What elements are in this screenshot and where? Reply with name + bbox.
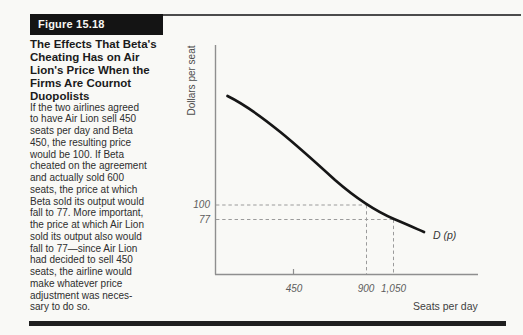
bottom-rule xyxy=(29,321,506,326)
y-tick-label-77: 77 xyxy=(184,214,210,225)
y-tick-label-100: 100 xyxy=(184,199,210,210)
demand-chart xyxy=(0,0,523,335)
x-tick-label-1050: 1,050 xyxy=(372,283,416,294)
textbook-figure-page: Figure 15.18 The Effects That Beta'sChea… xyxy=(0,0,523,335)
y-axis-title: Dollars per seat xyxy=(186,35,197,127)
x-axis-title: Seats per day xyxy=(413,300,508,312)
demand-curve xyxy=(228,96,425,232)
x-tick-label-450: 450 xyxy=(272,283,316,294)
demand-curve-label: D (p) xyxy=(433,229,456,241)
